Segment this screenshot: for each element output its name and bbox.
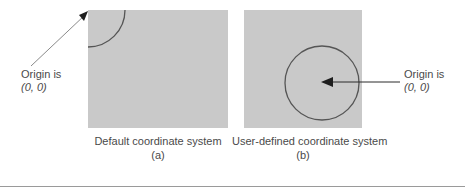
annotation-origin-user-defined: Origin is (0, 0): [404, 68, 444, 94]
caption-panel-b: User-defined coordinate system (b): [232, 134, 374, 162]
caption-a-text: Default coordinate system: [94, 135, 221, 147]
circle-user-defined-origin: [285, 46, 359, 120]
figure-vector-layer: [0, 0, 465, 192]
annotation-origin-default: Origin is (0, 0): [21, 68, 61, 94]
caption-b-label: (b): [232, 148, 374, 162]
leader-line-left: [31, 14, 86, 66]
annotation-right-line1: Origin is: [404, 68, 444, 81]
annotation-left-line1: Origin is: [21, 68, 61, 81]
caption-a-label: (a): [68, 148, 248, 162]
annotation-left-line2: (0, 0): [21, 81, 61, 94]
arc-default-origin: [88, 10, 125, 47]
bottom-divider: [0, 186, 465, 187]
figure-root: Origin is (0, 0) Origin is (0, 0) Defaul…: [0, 0, 465, 192]
caption-panel-a: Default coordinate system (a): [68, 134, 248, 162]
arrowhead-right-icon: [321, 77, 333, 87]
caption-b-text: User-defined coordinate system: [232, 135, 387, 147]
annotation-right-line2: (0, 0): [404, 81, 444, 94]
